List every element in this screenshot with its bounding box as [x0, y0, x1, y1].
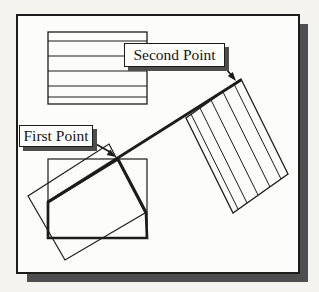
figure-stage: First Point Second Point — [0, 0, 319, 292]
second-point-label: Second Point — [133, 46, 215, 64]
first-point-label: First Point — [23, 127, 88, 145]
second-point-callout: Second Point — [124, 43, 225, 67]
first-point-callout: First Point — [19, 125, 93, 147]
